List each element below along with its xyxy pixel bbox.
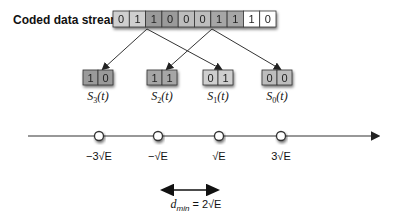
stream-bit: 0 [200,13,206,25]
mapping-arrow [103,29,147,69]
symbol-states: 10S3(t)11S2(t)01S1(t)00S0(t) [83,70,292,105]
stream-bit: 1 [134,13,140,25]
stream-bit: 0 [118,13,124,25]
coded-data-stream: 0110001110 [113,11,276,27]
state-bit: 1 [151,72,157,84]
state-label: S1(t) [207,89,228,105]
stream-bit: 1 [248,13,254,25]
stream-bit: 1 [216,13,222,25]
mapping-arrow [167,29,212,69]
amplitude-label: −√E [148,150,168,162]
stream-bit: 1 [232,13,238,25]
state-2: 11S2(t) [147,70,177,105]
stream-bit: 0 [265,13,271,25]
state-bit: 0 [281,72,287,84]
amplitude-label: −3√E [86,150,112,162]
constellation-point [215,132,224,141]
state-label: S3(t) [87,89,108,105]
state-label: S2(t) [151,89,172,105]
amplitude-label: √E [212,150,225,162]
stream-bit: 1 [151,13,157,25]
state-bit: 0 [102,72,108,84]
mapping-arrow [212,29,280,69]
state-0: 00S0(t) [262,70,292,105]
state-bit: 1 [87,72,93,84]
modulation-diagram: 0110001110 10S3(t)11S2(t)01S1(t)00S0(t) … [0,0,402,221]
state-label: S0(t) [266,89,287,105]
stream-bit: 0 [183,13,189,25]
state-bit: 1 [222,72,228,84]
constellation-point [95,132,104,141]
state-bit: 0 [266,72,272,84]
constellation-point [154,132,163,141]
amplitude-label: 3√E [271,150,291,162]
dmin-label: dmin = 2√E [171,197,222,213]
state-bit: 0 [207,72,213,84]
state-1: 01S1(t) [203,70,233,105]
mapping-arrows [103,29,280,69]
constellation-point [277,132,286,141]
state-3: 10S3(t) [83,70,113,105]
mapping-arrow [147,29,221,69]
stream-bit: 0 [167,13,173,25]
state-bit: 1 [166,72,172,84]
stream-bar: 0110001110 [113,11,276,27]
